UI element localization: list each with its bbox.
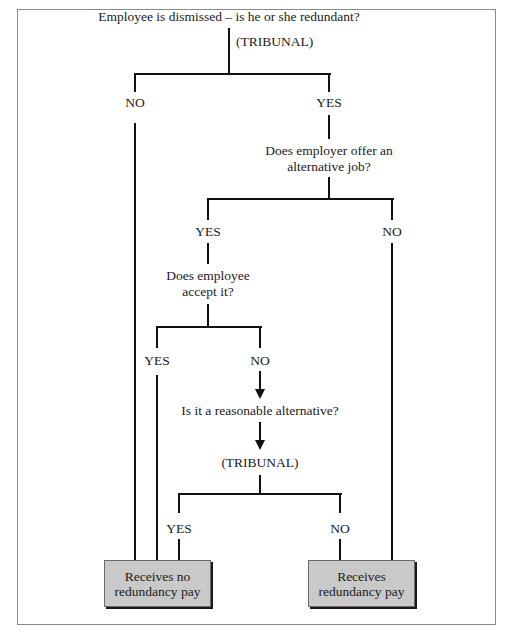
question-alternative-job-line1: Does employer offer an [265, 143, 393, 159]
decider-tribunal-2: (TRIBUNAL) [221, 455, 298, 471]
outcome-no-pay-line1: Receives no [115, 569, 201, 584]
outcome-no-redundancy-pay: Receives no redundancy pay [104, 560, 211, 607]
connector-q1-yes-to-q2 [328, 115, 330, 139]
connector-q3-no-top [259, 326, 261, 348]
connector-q2-branch [207, 198, 394, 200]
connector-q1-branch [134, 73, 331, 75]
connector-q2-no-top [391, 198, 393, 220]
connector-q2-yes-to-q3 [207, 243, 209, 264]
connector-q4-stem [259, 475, 261, 495]
connector-q4-no-top [339, 493, 341, 513]
connector-q3-no-arrow-shaft [259, 371, 261, 391]
connector-q4-yes-top [178, 493, 180, 513]
connector-q3-stem [207, 304, 209, 328]
connector-q2-stem [328, 177, 330, 199]
outcome-redundancy-pay: Receives redundancy pay [308, 560, 415, 607]
question-accept-line2: accept it? [182, 284, 233, 300]
connector-q2-yes-top [207, 198, 209, 220]
decider-tribunal-1: (TRIBUNAL) [236, 34, 313, 50]
connector-q1-stem [228, 28, 230, 75]
question-accept-line1: Does employee [166, 268, 250, 284]
connector-q2-no-to-outcome [391, 243, 393, 560]
label-q4-no: NO [330, 521, 350, 537]
label-q1-yes: YES [316, 95, 342, 111]
connector-q1-no-top [134, 73, 136, 92]
connector-q1-no-to-outcome [134, 123, 136, 560]
outcome-pay-line1: Receives [319, 569, 405, 584]
label-q4-yes: YES [166, 521, 192, 537]
connector-q4-branch [178, 493, 342, 495]
question-redundant: Employee is dismissed – is he or she red… [98, 9, 360, 25]
label-q1-no: NO [125, 95, 145, 111]
connector-q1-yes-top [328, 73, 330, 92]
connector-q4-yes-to-outcome [178, 539, 180, 560]
question-alternative-job-line2: alternative job? [287, 159, 371, 175]
connector-q3-yes-top [156, 326, 158, 348]
connector-q4-no-to-outcome [339, 539, 341, 560]
label-q3-no: NO [250, 353, 270, 369]
question-reasonable-alternative: Is it a reasonable alternative? [181, 403, 338, 419]
connector-q3-yes-to-outcome [156, 375, 158, 560]
diagram-frame [17, 9, 496, 625]
arrow-down-icon [255, 389, 265, 399]
label-q2-yes: YES [195, 224, 221, 240]
connector-q3-branch [156, 326, 262, 328]
outcome-no-pay-line2: redundancy pay [115, 584, 201, 599]
label-q3-yes: YES [144, 353, 170, 369]
outcome-pay-line2: redundancy pay [319, 584, 405, 599]
label-q2-no: NO [382, 224, 402, 240]
arrow-down-icon [255, 440, 265, 450]
connector-q4-arrow-shaft [259, 422, 261, 442]
